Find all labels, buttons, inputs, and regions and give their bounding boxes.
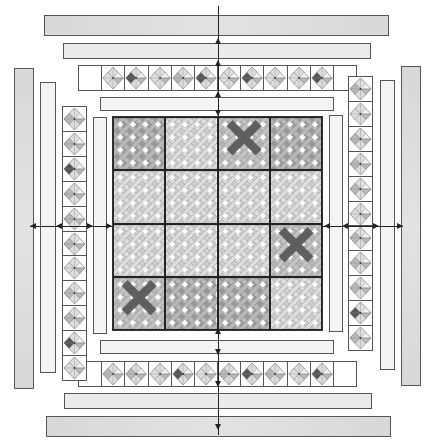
center-quilt-block (218, 117, 270, 170)
arrowhead-icon (215, 424, 221, 430)
top-middle-border-strip (63, 43, 371, 59)
right-border-block (349, 301, 372, 326)
top-border-block (218, 66, 241, 90)
center-quilt-block (270, 277, 322, 330)
arrowhead-icon (215, 381, 221, 387)
arrowhead-icon (373, 223, 379, 229)
arrowhead-icon (56, 223, 62, 229)
bottom-border-block (102, 362, 125, 386)
top-border-block (149, 66, 172, 90)
top-border-block (288, 66, 311, 90)
center-quilt-block (113, 170, 165, 223)
right-border-block (349, 152, 372, 177)
bottom-border-corner-square (334, 362, 356, 386)
top-border-block (311, 66, 334, 90)
left-border-block (63, 107, 86, 132)
bottom-border-block (218, 362, 241, 386)
center-quilt-block (165, 277, 217, 330)
left-border-block (63, 331, 86, 356)
center-quilt-block (165, 117, 217, 170)
arrowhead-icon (215, 328, 221, 334)
arrowhead-icon (342, 223, 348, 229)
arrowhead-icon (215, 91, 221, 97)
left-border-block (63, 356, 86, 380)
center-quilt-block (270, 170, 322, 223)
top-outer-border-strip (44, 15, 389, 36)
top-inner-border-strip (100, 97, 334, 111)
right-border-block (349, 226, 372, 251)
bottom-border-block (125, 362, 148, 386)
center-quilt-block (218, 170, 270, 223)
right-border-block (349, 77, 372, 102)
arrowhead-icon (215, 110, 221, 116)
left-assembly-arrow (30, 226, 112, 227)
bottom-border-block (241, 362, 264, 386)
center-quilt-block (270, 224, 322, 277)
bottom-border-block (264, 362, 287, 386)
arrowhead-icon (215, 38, 221, 44)
arrowhead-icon (215, 349, 221, 355)
left-pieced-border-column (62, 106, 87, 381)
top-border-block (172, 66, 195, 90)
left-border-block (63, 207, 86, 232)
right-middle-border-strip (380, 80, 395, 370)
center-quilt-block (218, 277, 270, 330)
right-border-block (349, 102, 372, 127)
quilt-center-grid (112, 116, 323, 331)
right-border-block (349, 177, 372, 202)
arrowhead-icon (30, 223, 36, 229)
arrowhead-icon (87, 223, 93, 229)
right-border-block (349, 202, 372, 227)
right-assembly-arrow (323, 226, 403, 227)
right-border-block (349, 276, 372, 301)
center-quilt-block (113, 117, 165, 170)
center-quilt-block (113, 224, 165, 277)
top-border-block (264, 66, 287, 90)
left-border-block (63, 182, 86, 207)
center-quilt-block (165, 170, 217, 223)
bottom-border-block (149, 362, 172, 386)
right-pieced-border-column (348, 76, 373, 351)
right-outer-border-strip (401, 66, 421, 386)
bottom-border-block (172, 362, 195, 386)
center-quilt-block (165, 224, 217, 277)
arrowhead-icon (106, 223, 112, 229)
arrowhead-icon (324, 223, 330, 229)
right-inner-border-strip (329, 115, 343, 332)
top-border-block (241, 66, 264, 90)
left-border-block (63, 281, 86, 306)
left-middle-border-strip (40, 82, 56, 373)
top-border-block (102, 66, 125, 90)
left-border-block (63, 132, 86, 157)
left-border-block (63, 306, 86, 331)
bottom-border-block (288, 362, 311, 386)
arrowhead-icon (397, 223, 403, 229)
right-border-block (349, 127, 372, 152)
top-border-corner-square (79, 66, 102, 90)
arrowhead-icon (215, 60, 221, 66)
center-quilt-block (113, 277, 165, 330)
top-border-block (195, 66, 218, 90)
center-quilt-block (218, 224, 270, 277)
right-border-block (349, 326, 372, 350)
top-border-block (125, 66, 148, 90)
left-border-block (63, 232, 86, 257)
left-border-block (63, 157, 86, 182)
left-border-block (63, 256, 86, 281)
bottom-border-block (311, 362, 334, 386)
center-quilt-block (270, 117, 322, 170)
right-border-block (349, 251, 372, 276)
